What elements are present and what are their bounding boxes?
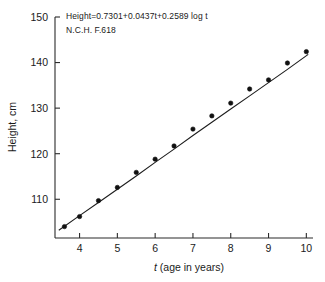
x-axis-title: t (age in years) (154, 261, 224, 273)
data-point (153, 157, 157, 161)
data-point (304, 49, 308, 53)
data-point (62, 224, 66, 228)
y-axis-title: Height, cm (6, 102, 18, 152)
data-point (247, 87, 251, 91)
data-point (134, 170, 138, 174)
y-tick-label: 120 (30, 148, 48, 160)
growth-chart-figure: 110120130140150 45678910 t (age in years… (0, 0, 325, 282)
data-point (115, 185, 119, 189)
x-tick-label: 5 (114, 242, 120, 254)
y-tick-label: 110 (31, 193, 48, 205)
x-tick-label: 7 (190, 242, 196, 254)
data-point-group (62, 49, 308, 228)
data-point (285, 61, 289, 65)
x-tick-label: 6 (152, 242, 158, 254)
annotation-equation: Height=0.7301+0.0437t+0.2589 log t (66, 11, 208, 21)
x-tick-label: 8 (228, 242, 234, 254)
x-tick-label: 4 (77, 242, 83, 254)
y-tick-label: 150 (30, 11, 48, 23)
data-point (77, 214, 81, 218)
data-point (266, 78, 270, 82)
chart-canvas: 110120130140150 45678910 t (age in years… (0, 0, 325, 282)
annotation-source: N.C.H. F.618 (66, 25, 116, 35)
data-point (210, 114, 214, 118)
axes-group (55, 17, 313, 238)
data-point (191, 127, 195, 131)
x-axis-ticks: 45678910 (77, 233, 313, 254)
data-point (96, 198, 100, 202)
x-tick-label: 9 (266, 242, 272, 254)
x-tick-label: 10 (300, 242, 312, 254)
data-point (172, 144, 176, 148)
data-point (229, 101, 233, 105)
x-axis-title-rest: (age in years) (157, 261, 224, 273)
y-tick-label: 130 (30, 102, 48, 114)
y-tick-label: 140 (30, 56, 48, 68)
y-axis-ticks: 110120130140150 (30, 11, 60, 205)
